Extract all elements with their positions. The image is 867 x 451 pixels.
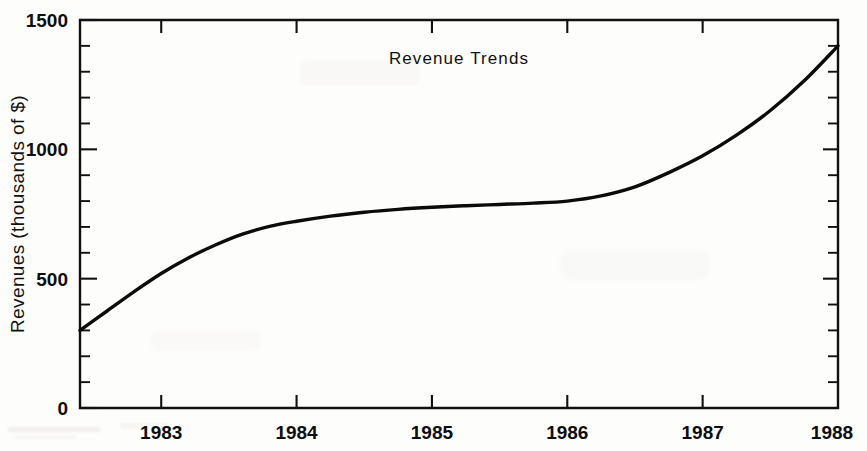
y-tick-label: 500 xyxy=(36,269,68,290)
x-tick-label: 1987 xyxy=(682,422,724,443)
x-tick-label: 1985 xyxy=(411,422,454,443)
y-axis-major-ticks xyxy=(80,20,97,408)
y-axis-title: Revenues (thousands of $) xyxy=(7,95,28,333)
chart-title: Revenue Trends xyxy=(389,49,529,68)
y-axis-tick-labels: 050010001500 xyxy=(26,10,68,419)
y-tick-label: 1000 xyxy=(26,139,68,160)
chart-page: 050010001500 198319841985198619871988 Re… xyxy=(0,0,867,451)
revenue-line-series xyxy=(80,46,838,331)
x-axis-tick-labels: 198319841985198619871988 xyxy=(140,422,853,443)
x-tick-label: 1988 xyxy=(811,422,853,443)
x-axis-top-ticks xyxy=(161,20,702,33)
x-tick-label: 1983 xyxy=(140,422,182,443)
plot-frame xyxy=(80,20,838,408)
y-axis-right-ticks xyxy=(823,46,838,382)
x-tick-label: 1984 xyxy=(275,422,318,443)
x-axis-bottom-ticks xyxy=(161,395,702,408)
revenue-trends-chart: 050010001500 198319841985198619871988 Re… xyxy=(0,0,867,451)
x-tick-label: 1986 xyxy=(546,422,588,443)
y-axis-minor-ticks xyxy=(80,46,90,382)
y-tick-label: 1500 xyxy=(26,10,68,31)
y-tick-label: 0 xyxy=(57,398,68,419)
